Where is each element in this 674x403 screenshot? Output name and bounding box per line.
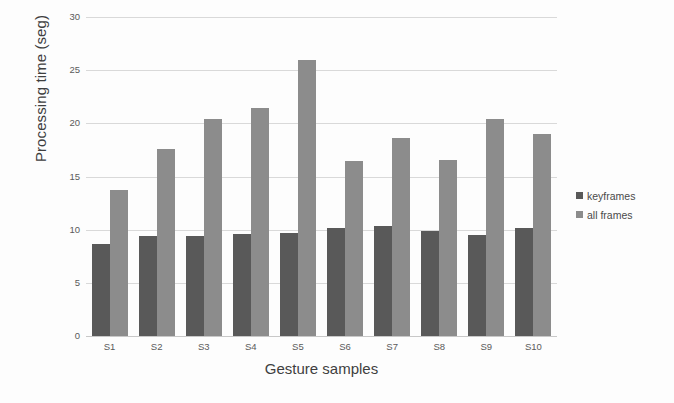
bar-keyframes-S5[interactable] <box>280 233 298 336</box>
bar-group <box>321 17 368 336</box>
bar-group <box>227 17 274 336</box>
bar-keyframes-S4[interactable] <box>233 234 251 336</box>
legend-label: keyframes <box>587 190 635 202</box>
bar-group <box>133 17 180 336</box>
x-axis-title: Gesture samples <box>86 360 557 377</box>
bar-group <box>180 17 227 336</box>
bar-all-frames-S1[interactable] <box>110 190 128 336</box>
plot-area <box>86 17 557 336</box>
bar-all-frames-S8[interactable] <box>439 160 457 337</box>
bar-keyframes-S10[interactable] <box>515 228 533 336</box>
y-axis-tick-label: 25 <box>54 65 80 75</box>
bar-all-frames-S7[interactable] <box>392 138 410 336</box>
y-axis-tick-label: 20 <box>54 118 80 128</box>
y-axis-tick-label: 0 <box>54 331 80 341</box>
bar-keyframes-S8[interactable] <box>421 231 439 336</box>
bar-series-container <box>86 17 557 336</box>
x-axis-tick-label: S4 <box>227 340 274 356</box>
x-axis-tick-label: S9 <box>463 340 510 356</box>
chart-legend: keyframesall frames <box>576 186 672 224</box>
bar-group <box>274 17 321 336</box>
bar-all-frames-S5[interactable] <box>298 60 316 336</box>
legend-swatch-icon <box>576 211 583 218</box>
bar-group <box>463 17 510 336</box>
bar-keyframes-S7[interactable] <box>374 226 392 336</box>
x-axis-tick-label: S1 <box>86 340 133 356</box>
bar-keyframes-S3[interactable] <box>186 236 204 336</box>
bar-keyframes-S2[interactable] <box>139 236 157 336</box>
y-axis-tick-label: 10 <box>54 225 80 235</box>
legend-item-all-frames[interactable]: all frames <box>576 205 672 224</box>
x-axis-tick-label: S2 <box>133 340 180 356</box>
bar-all-frames-S10[interactable] <box>533 134 551 336</box>
x-axis-tick-label: S6 <box>321 340 368 356</box>
bar-keyframes-S1[interactable] <box>92 244 110 337</box>
legend-swatch-icon <box>576 192 583 199</box>
legend-label: all frames <box>587 209 633 221</box>
bar-group <box>510 17 557 336</box>
x-axis-tick-label: S3 <box>180 340 227 356</box>
y-axis-tick-label: 15 <box>54 172 80 182</box>
bar-group <box>369 17 416 336</box>
y-axis-tick-label: 5 <box>54 278 80 288</box>
x-axis-tick-label: S5 <box>274 340 321 356</box>
x-axis-line <box>86 336 557 337</box>
bar-all-frames-S4[interactable] <box>251 108 269 336</box>
x-axis-tick-label: S7 <box>369 340 416 356</box>
bar-group <box>416 17 463 336</box>
bar-all-frames-S9[interactable] <box>486 119 504 336</box>
bar-group <box>86 17 133 336</box>
bar-all-frames-S2[interactable] <box>157 149 175 336</box>
legend-item-keyframes[interactable]: keyframes <box>576 186 672 205</box>
bar-chart: Processing time (seg) 051015202530 S1S2S… <box>0 0 674 403</box>
bar-keyframes-S9[interactable] <box>468 235 486 336</box>
bar-keyframes-S6[interactable] <box>327 228 345 336</box>
bar-all-frames-S6[interactable] <box>345 161 363 336</box>
y-axis-title: Processing time (seg) <box>32 0 49 199</box>
x-axis-tick-labels: S1S2S3S4S5S6S7S8S9S10 <box>86 340 557 356</box>
x-axis-tick-label: S10 <box>510 340 557 356</box>
bar-all-frames-S3[interactable] <box>204 119 222 336</box>
y-axis-tick-label: 30 <box>54 12 80 22</box>
x-axis-tick-label: S8 <box>416 340 463 356</box>
y-axis-tick-labels: 051015202530 <box>52 0 80 403</box>
